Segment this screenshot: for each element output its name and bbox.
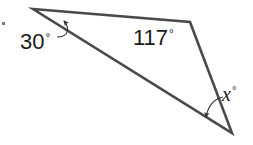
degree-symbol-icon: ° xyxy=(232,84,236,96)
degree-symbol-icon: ° xyxy=(45,31,50,45)
angle-label-117: 117° xyxy=(133,27,173,49)
angle-label-30-value: 30 xyxy=(20,29,44,54)
angle-label-30: 30° xyxy=(20,31,49,53)
angle-label-x: x° xyxy=(222,84,235,104)
stray-dot-mark xyxy=(2,22,5,25)
angle-label-x-value: x xyxy=(222,83,231,105)
triangle-figure xyxy=(0,0,253,145)
geometry-diagram: 30° 117° x° xyxy=(0,0,253,145)
angle-label-117-value: 117 xyxy=(133,25,168,50)
degree-symbol-icon: ° xyxy=(169,27,174,41)
